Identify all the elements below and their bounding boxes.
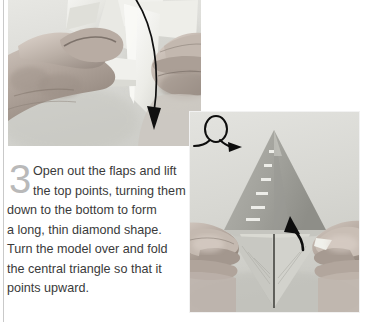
instruction-line: Open out the flaps and lift: [7, 162, 193, 182]
photo-top: [8, 0, 201, 146]
instruction-line: the top points, turning them: [7, 182, 193, 202]
photo-bottom: [190, 112, 359, 312]
instruction-page: 3 Open out the flaps and lift the top po…: [0, 0, 366, 322]
instruction-line: the central triangle so that it: [7, 260, 193, 280]
instruction-line: points upward.: [7, 279, 193, 299]
instruction-line: Turn the model over and fold: [7, 240, 193, 260]
page-edge-rule: [3, 0, 4, 322]
instruction-line: down to the bottom to form: [7, 201, 193, 221]
step-instruction-text: Open out the flaps and lift the top poin…: [7, 162, 193, 299]
instruction-line: a long, thin diamond shape.: [7, 221, 193, 241]
